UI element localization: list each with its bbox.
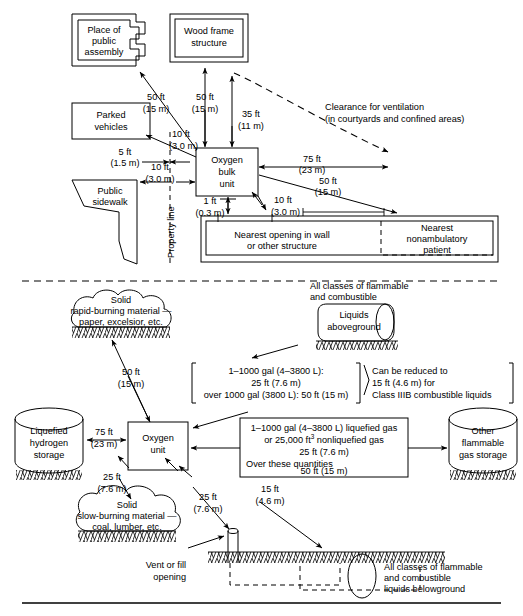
nearest-opening-line-2: or other structure [247, 241, 317, 251]
solid-slow-burning-line-3: coal, lumber, etc. [92, 522, 161, 532]
dim-ventilation-35-m: (11 m) [238, 121, 264, 131]
ventilation-clearance-arc: Clearance for ventilation (in courtyards… [234, 73, 464, 152]
ventilation-note-line-1: Clearance for ventilation [325, 102, 424, 112]
note-liquids-aboveground-line-1: 1–1000 gal (4–3800 L): [228, 366, 323, 376]
dim-patient-50-ft: 50 ft [319, 176, 337, 186]
parked-vehicles: Parked vehicles [72, 103, 150, 139]
note-class-iiib-line-1: Can be reduced to [372, 366, 448, 376]
solid-slow-burning-line-1: Solid [117, 500, 137, 510]
place-of-public-assembly-line-2: public [92, 36, 116, 46]
ventilation-note-line-2: (in courtyards and confined areas) [325, 114, 464, 124]
dim-patient-50-m: (15 m) [315, 187, 342, 197]
solid-slow-burning-line-2: slow-burning material — [77, 511, 177, 521]
parked-vehicles-line-2: vehicles [94, 122, 128, 132]
dim-vent-25-ft: 25 ft [199, 492, 217, 502]
public-sidewalk: Public sidewalk [72, 180, 137, 264]
nearest-nonambulatory-patient-line-3: patient [423, 245, 451, 255]
dim-wall-1ft-m: (0.3 m) [195, 208, 224, 218]
dim-ventilation-75-m: (23 m) [299, 165, 326, 175]
dim-ventilation-35: 35 ft (11 m) [232, 76, 264, 147]
dim-property-line-5-ft: 5 ft [119, 147, 132, 157]
liquids-aboveground-caption-2: and combustible [310, 292, 377, 302]
dim-wood-frame-ft: 50 ft [196, 92, 214, 102]
separation-distance-diagram: Place of public assembly Wood frame stru… [0, 0, 523, 616]
note-flammable-gas: 1–1000 gal (4–3800 L) liquefied gas or 2… [240, 418, 408, 477]
dim-sidewalk-10-m: (3.0 m) [145, 174, 174, 184]
oxygen-bulk-unit-line-3: unit [220, 179, 235, 189]
solid-rapid-burning-line-2: rapid-burning material — [70, 306, 172, 316]
note-flammable-gas-line-5: 50 ft (15 m) [301, 466, 348, 476]
liquids-belowground-line-3: liquids belowground [384, 584, 465, 594]
liquids-aboveground: All classes of flammable and combustible… [310, 281, 409, 350]
note-liquids-aboveground-line-3: over 1000 gal (3800 L): 50 ft (15 m) [204, 390, 349, 400]
other-flammable-gas-storage: Other flammable gas storage [449, 408, 517, 480]
nearest-nonambulatory-patient: Nearest nonambulatory patient [381, 221, 493, 255]
note-flammable-gas-line-2b: nonliquefied gas [314, 435, 384, 445]
liquids-belowground-line-1: All classes of flammable [384, 562, 483, 572]
other-flammable-gas-storage-line-2: flammable [462, 438, 504, 448]
dim-rapid-burning-50-ft: 50 ft [122, 367, 140, 377]
note-liquids-aboveground: 1–1000 gal (4–3800 L): 25 ft (7.6 m) ove… [192, 363, 360, 403]
dim-hydrogen-75-m: (23 m) [91, 439, 118, 449]
dim-ventilation-75: 75 ft (23 m) [259, 154, 388, 175]
public-sidewalk-line-2: sidewalk [92, 197, 128, 207]
note-flammable-gas-line-3: 25 ft (7.6 m) [299, 447, 349, 457]
oxygen-unit: Oxygen unit [128, 422, 188, 470]
dim-assembly-m: (15 m) [143, 104, 170, 114]
other-flammable-gas-storage-line-1: Other [472, 426, 495, 436]
dim-belowground-15-ft: 15 ft [261, 484, 279, 494]
note-flammable-gas-line-2a: or 25,000 ft [264, 435, 311, 445]
liquids-belowground-line-2: and combustible [384, 573, 451, 583]
liquefied-hydrogen-storage-line-3: storage [34, 450, 65, 460]
dim-slow-burning-25-m: (7.6 m) [97, 484, 126, 494]
dim-wood-frame: 50 ft (15 m) [192, 68, 219, 147]
dim-opening-10: 10 ft (3.0 m) [252, 192, 300, 217]
place-of-public-assembly-line-3: assembly [85, 47, 124, 57]
oxygen-bulk-unit-line-1: Oxygen [211, 155, 243, 165]
property-line: Property line [166, 132, 176, 264]
liquefied-hydrogen-storage-line-2: hydrogen [30, 438, 68, 448]
dim-hydrogen-75-ft: 75 ft [95, 427, 113, 437]
dim-property-line-5-m: (1.5 m) [110, 158, 139, 168]
property-line-label: Property line [166, 206, 176, 258]
place-of-public-assembly: Place of public assembly [72, 14, 145, 66]
nearest-nonambulatory-patient-line-2: nonambulatory [407, 234, 468, 244]
dim-hydrogen-75: 75 ft (23 m) [87, 427, 126, 449]
other-flammable-gas-storage-line-3: gas storage [459, 450, 507, 460]
dim-rapid-burning-50: 50 ft (15 m) [112, 340, 150, 422]
dim-opening-10-m: (3.0 m) [271, 207, 300, 217]
wood-frame-structure-line-1: Wood frame [184, 26, 234, 36]
note-class-iiib: Can be reduced to 15 ft (4.6 m) for Clas… [364, 363, 513, 403]
place-of-public-assembly-line-1: Place of [87, 25, 121, 35]
note-class-iiib-line-3: Class IIIB combustible liquids [372, 390, 492, 400]
note-class-iiib-line-2: 15 ft (4.6 m) for [372, 378, 435, 388]
dim-wall-1ft: 1 ft (0.3 m) [195, 196, 236, 218]
liquefied-hydrogen-storage-line-1: Liquefied [30, 426, 67, 436]
dim-assembly-ft: 50 ft [147, 92, 165, 102]
liquids-aboveground-line-2: aboveground [327, 322, 381, 332]
dim-slow-burning-25: 25 ft (7.6 m) [97, 456, 131, 499]
dim-parked-vehicles-ft: 10 ft [172, 129, 190, 139]
parked-vehicles-line-1: Parked [96, 110, 125, 120]
dim-wall-1ft-ft: 1 ft [204, 196, 217, 206]
public-sidewalk-line-1: Public [97, 186, 122, 196]
figure-canvas: Place of public assembly Wood frame stru… [0, 0, 523, 616]
dim-belowground-15-m: (4.6 m) [255, 496, 284, 506]
solid-rapid-burning-line-3: paper, excelsior, etc. [79, 317, 163, 327]
liquids-aboveground-line-1: Liquids [339, 310, 369, 320]
note-flammable-gas-line-1: 1–1000 gal (4–3800 L) liquefied gas [251, 423, 398, 433]
solid-rapid-burning-line-1: Solid [111, 295, 131, 305]
dim-parked-vehicles: 10 ft (3.0 m) [146, 129, 198, 157]
oxygen-bulk-unit-line-2: bulk [219, 167, 236, 177]
wood-frame-structure: Wood frame structure [170, 14, 248, 62]
dim-wood-frame-m: (15 m) [192, 104, 219, 114]
solid-rapid-burning: Solid rapid-burning material — paper, ex… [70, 290, 172, 338]
dim-sidewalk-10-ft: 10 ft [151, 162, 169, 172]
dim-parked-vehicles-m: (3.0 m) [169, 141, 198, 151]
dim-sidewalk-10: 10 ft (3.0 m) [140, 162, 195, 184]
liquids-aboveground-caption-1: All classes of flammable [310, 281, 409, 291]
vent-or-fill-opening-line-1: Vent or fill [146, 560, 186, 570]
oxygen-bulk-unit: Oxygen bulk unit [196, 148, 258, 196]
note-liquids-aboveground-line-2: 25 ft (7.6 m) [251, 378, 301, 388]
liquefied-hydrogen-storage: Liquefied hydrogen storage [15, 408, 83, 480]
